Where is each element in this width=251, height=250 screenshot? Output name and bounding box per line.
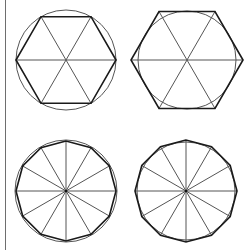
figure-top-right <box>131 11 243 109</box>
center-point <box>65 190 68 193</box>
center-point <box>185 190 188 193</box>
figure-top-left <box>16 10 116 110</box>
figure-bottom-left <box>15 140 117 242</box>
polygon-approximation-diagram <box>0 0 251 250</box>
figure-bottom-right <box>135 140 237 242</box>
